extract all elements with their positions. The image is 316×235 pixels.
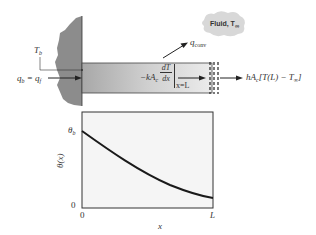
derivative-numerator: dT [160,64,172,73]
derivative-denominator: dx [160,75,172,83]
y-tick-theta-b: θb [68,126,75,136]
x-axis-label: x [158,222,162,231]
fluid-label: Fluid, T∞ [210,20,239,29]
y-axis-label: θ(x) [56,154,65,168]
tip-convection-label: hAc[T(L) − T∞] [246,73,302,83]
x-tick-L: L [210,211,215,220]
eval-at-label: x=L [176,82,189,90]
conduction-label: −kAc [140,73,158,83]
y-tick-zero: 0 [71,201,76,210]
base-wall [55,16,82,106]
base-heat-label: qb = qf [17,74,41,84]
x-tick-zero: 0 [80,211,85,220]
convection-arrow [163,45,184,58]
eval-bar [174,64,175,88]
fin-diagram [0,0,316,235]
base-temp-label: Tb [34,46,42,56]
convection-label: qconv [190,38,206,48]
